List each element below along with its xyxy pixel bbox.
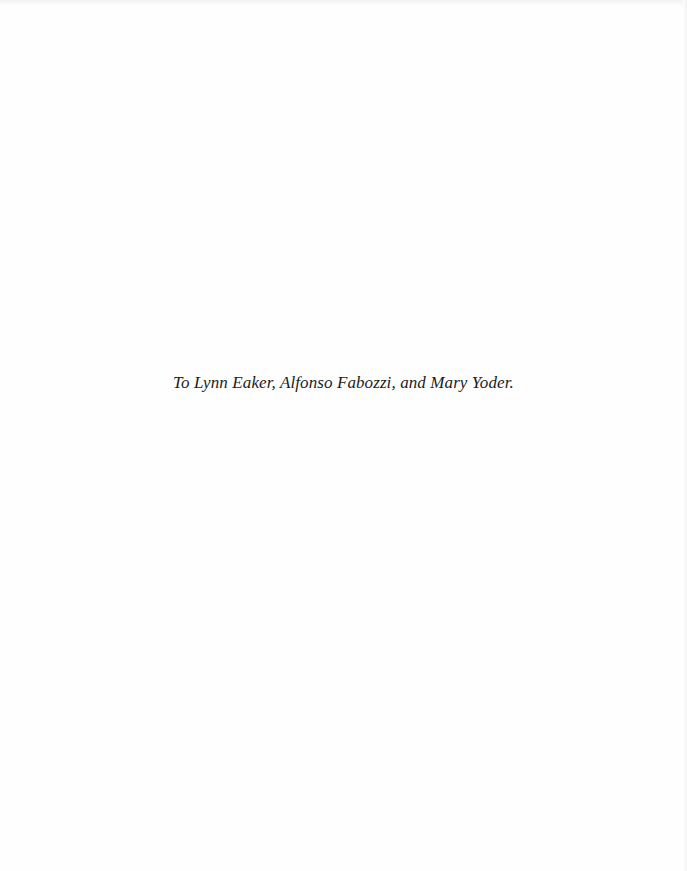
page-right-edge-shadow <box>683 0 687 871</box>
page-top-edge-shadow <box>0 0 687 6</box>
dedication-text: To Lynn Eaker, Alfonso Fabozzi, and Mary… <box>0 373 687 393</box>
document-page: To Lynn Eaker, Alfonso Fabozzi, and Mary… <box>0 0 687 871</box>
